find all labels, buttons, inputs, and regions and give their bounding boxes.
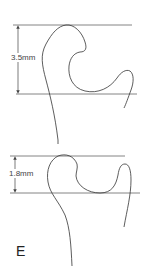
top-measurement-label: 3.5mm [10, 53, 36, 62]
panel-label: E [16, 243, 25, 259]
top-curve-outline [42, 25, 133, 140]
bottom-curve-outline [47, 155, 131, 266]
bottom-measurement-label: 1.8mm [8, 169, 34, 178]
figure-canvas [0, 0, 150, 280]
bottom-diagram [10, 140, 140, 266]
top-diagram [13, 25, 137, 140]
